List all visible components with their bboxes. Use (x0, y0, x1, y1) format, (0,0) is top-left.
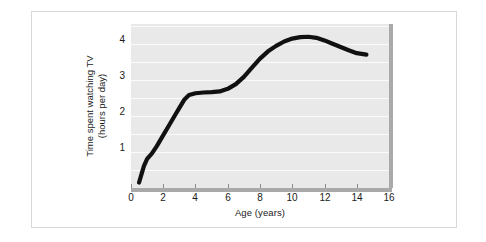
x-tick-label-4: 4 (185, 192, 205, 203)
x-tick-mark (260, 184, 261, 188)
y-tick-label-2: 2 (111, 106, 125, 117)
x-tick-mark (357, 184, 358, 188)
x-tick-mark (163, 184, 164, 188)
x-tick-label-0: 0 (121, 192, 141, 203)
y-tick-label-1: 1 (111, 142, 125, 153)
x-tick-label-6: 6 (218, 192, 238, 203)
y-axis-title-line1: Time spent watching TV (84, 55, 95, 156)
x-tick-mark (195, 184, 196, 188)
y-axis-title-line2: (hours per day) (96, 55, 108, 156)
data-curve (131, 24, 389, 188)
figure-canvas: Time spent watching TV (hours per day) 1… (0, 0, 486, 242)
x-tick-mark (292, 184, 293, 188)
line-chart: Time spent watching TV (hours per day) 1… (0, 0, 486, 242)
x-tick-label-14: 14 (347, 192, 367, 203)
y-tick-label-4: 4 (111, 34, 125, 45)
x-tick-label-12: 12 (315, 192, 335, 203)
y-tick-label-3: 3 (111, 70, 125, 81)
y-axis-title: Time spent watching TV (hours per day) (78, 24, 114, 188)
x-tick-label-10: 10 (282, 192, 302, 203)
x-tick-label-2: 2 (153, 192, 173, 203)
x-tick-mark (228, 184, 229, 188)
x-tick-mark (131, 184, 132, 188)
x-tick-label-16: 16 (379, 192, 399, 203)
right-axis-line (389, 24, 393, 188)
plot-area (131, 24, 389, 188)
x-axis-title: Age (years) (131, 207, 389, 218)
x-tick-label-8: 8 (250, 192, 270, 203)
x-tick-mark (325, 184, 326, 188)
